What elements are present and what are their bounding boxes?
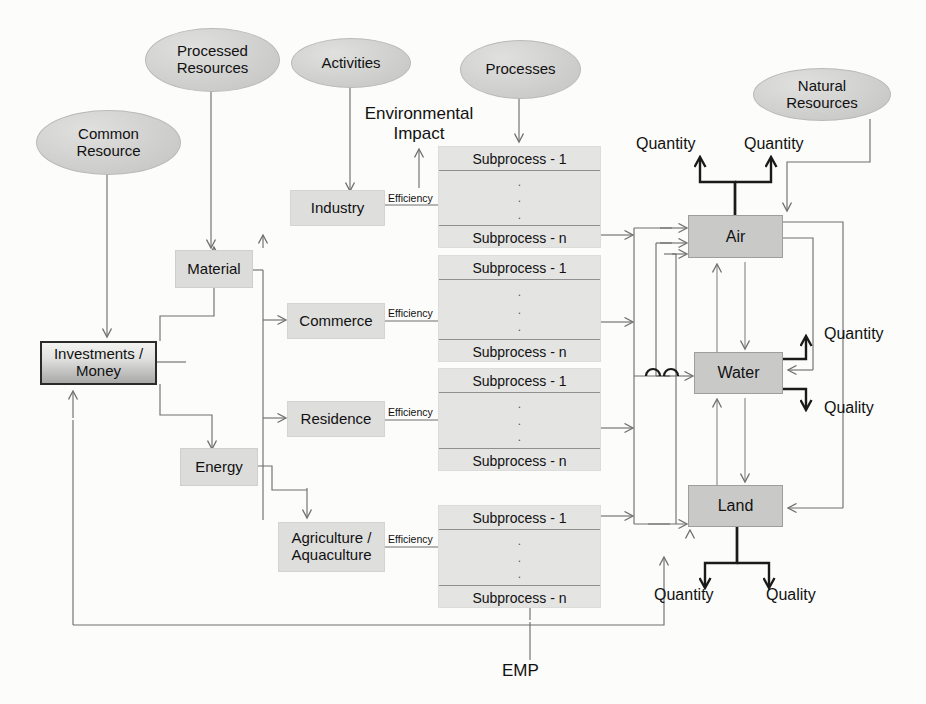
box-commerce[interactable]: Commerce bbox=[287, 303, 385, 339]
subprocess-last-row: Subprocess - n bbox=[439, 226, 600, 249]
label-efficiency-agriculture: Efficiency bbox=[388, 533, 433, 545]
box-industry-label: Industry bbox=[311, 200, 364, 217]
ellipse-natural-resources-line2: Resources bbox=[786, 95, 858, 112]
box-material-label: Material bbox=[187, 261, 240, 278]
ellipse-processed-resources[interactable]: Processed Resources bbox=[145, 28, 280, 92]
label-efficiency-residence: Efficiency bbox=[388, 406, 433, 418]
box-land[interactable]: Land bbox=[688, 485, 783, 527]
subprocess-block-residence[interactable]: Subprocess - 1 ... Subprocess - n bbox=[438, 368, 601, 471]
subprocess-first-row: Subprocess - 1 bbox=[439, 256, 600, 279]
label-water-quality: Quality bbox=[824, 399, 874, 417]
subprocess-ellipsis: ... bbox=[439, 280, 600, 339]
box-agriculture-line1: Agriculture / bbox=[291, 530, 371, 547]
subprocess-ellipsis: ... bbox=[439, 171, 600, 225]
subprocess-last-row: Subprocess - n bbox=[439, 449, 600, 472]
edge-money-bus-top bbox=[127, 316, 186, 341]
ellipse-processes-label: Processes bbox=[485, 61, 555, 78]
box-agriculture-aquaculture[interactable]: Agriculture / Aquaculture bbox=[278, 522, 385, 572]
box-water[interactable]: Water bbox=[694, 352, 783, 394]
arrow-land-quantity bbox=[705, 527, 737, 587]
subprocess-ellipsis: ... bbox=[439, 530, 600, 585]
arrow-air-quantity-left bbox=[700, 158, 735, 215]
box-water-label: Water bbox=[717, 364, 759, 382]
ellipse-processed-resources-line2: Resources bbox=[177, 60, 249, 77]
subprocess-ellipsis: ... bbox=[439, 393, 600, 448]
box-agriculture-line2: Aquaculture bbox=[291, 547, 371, 564]
ellipse-common-resource[interactable]: Common Resource bbox=[36, 110, 181, 175]
ellipse-processed-resources-line1: Processed bbox=[177, 43, 249, 60]
box-air-label: Air bbox=[726, 228, 746, 246]
edge-natural-to-air bbox=[787, 119, 870, 210]
box-energy[interactable]: Energy bbox=[180, 448, 258, 486]
label-environmental-impact: Environmental Impact bbox=[339, 104, 499, 143]
box-industry[interactable]: Industry bbox=[290, 190, 385, 226]
label-efficiency-industry: Efficiency bbox=[388, 192, 433, 204]
subprocess-block-agriculture[interactable]: Subprocess - 1 ... Subprocess - n bbox=[438, 505, 601, 608]
subprocess-first-row: Subprocess - 1 bbox=[439, 369, 600, 392]
subprocess-last-row: Subprocess - n bbox=[439, 340, 600, 363]
ellipse-activities-label: Activities bbox=[321, 55, 380, 72]
ellipse-natural-resources[interactable]: Natural Resources bbox=[753, 68, 891, 121]
diagram-canvas: Processed Resources Activities Common Re… bbox=[0, 0, 926, 704]
arrow-land-quality bbox=[737, 563, 769, 587]
edge-money-to-energy bbox=[160, 384, 212, 448]
loop-air-to-water bbox=[783, 238, 813, 370]
box-commerce-label: Commerce bbox=[299, 313, 372, 330]
label-air-quantity-right: Quantity bbox=[744, 135, 804, 153]
edge-energy-bus bbox=[258, 466, 307, 490]
box-energy-label: Energy bbox=[195, 459, 243, 476]
line-hop-arcs bbox=[646, 369, 678, 376]
label-water-quantity: Quantity bbox=[824, 325, 884, 343]
subprocess-first-row: Subprocess - 1 bbox=[439, 147, 600, 170]
label-land-quality: Quality bbox=[766, 586, 816, 604]
ellipse-common-resource-line2: Resource bbox=[76, 143, 140, 160]
arrow-water-quantity bbox=[783, 337, 806, 359]
box-residence-label: Residence bbox=[301, 411, 372, 428]
label-land-quantity: Quantity bbox=[654, 586, 714, 604]
box-material[interactable]: Material bbox=[175, 250, 253, 288]
label-air-quantity-left: Quantity bbox=[636, 135, 696, 153]
label-environmental-impact-line1: Environmental bbox=[339, 104, 499, 124]
ellipse-activities[interactable]: Activities bbox=[291, 38, 411, 88]
box-investments-money[interactable]: Investments / Money bbox=[40, 341, 157, 385]
ellipse-common-resource-line1: Common bbox=[76, 126, 140, 143]
ellipse-processes[interactable]: Processes bbox=[460, 40, 581, 99]
box-land-label: Land bbox=[718, 497, 754, 515]
arrow-water-quality bbox=[783, 389, 806, 409]
box-residence[interactable]: Residence bbox=[287, 401, 385, 437]
arrow-air-quantity-right bbox=[735, 158, 771, 182]
subprocess-first-row: Subprocess - 1 bbox=[439, 506, 600, 529]
box-investments-money-line2: Money bbox=[54, 363, 143, 380]
box-air[interactable]: Air bbox=[688, 215, 783, 258]
label-efficiency-commerce: Efficiency bbox=[388, 307, 433, 319]
subprocess-block-industry[interactable]: Subprocess - 1 ... Subprocess - n bbox=[438, 146, 601, 248]
subprocess-last-row: Subprocess - n bbox=[439, 586, 600, 609]
label-emp: EMP bbox=[502, 661, 539, 681]
label-environmental-impact-line2: Impact bbox=[339, 124, 499, 144]
box-investments-money-line1: Investments / bbox=[54, 346, 143, 363]
ellipse-natural-resources-line1: Natural bbox=[786, 78, 858, 95]
subprocess-block-commerce[interactable]: Subprocess - 1 ... Subprocess - n bbox=[438, 255, 601, 362]
